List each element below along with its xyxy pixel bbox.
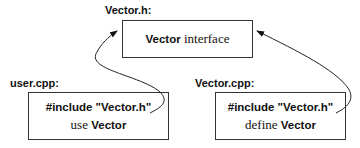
impl-to-header-arrow [257, 31, 351, 113]
include-arrows [0, 0, 360, 148]
user-to-header-arrow [95, 31, 164, 113]
